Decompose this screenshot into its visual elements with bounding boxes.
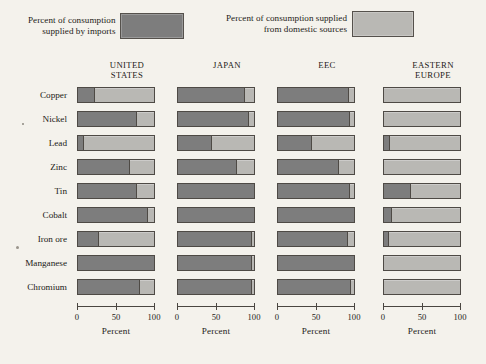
bar-segment-domestic: [77, 159, 155, 175]
bar-segment-imports: [178, 160, 237, 174]
bar-segment-imports: [278, 160, 339, 174]
bar-segment-imports: [278, 256, 354, 270]
legend-label-imports-line1: Percent of consumption: [28, 15, 115, 26]
bar-row-lead: [277, 135, 355, 151]
legend-label-domestic: Percent of consumption supplied from dom…: [226, 13, 352, 35]
bar-row-copper: [277, 87, 355, 103]
panel-title-eastern-europe: EASTERNEUROPE: [383, 60, 483, 80]
x-axis-tick-label: 50: [312, 312, 321, 322]
bar-segment-imports: [78, 136, 84, 150]
bar-segment-domestic: [277, 159, 355, 175]
bar-segment-imports: [178, 256, 252, 270]
bar-row-tin: [177, 183, 255, 199]
panel-title-line1: JAPAN: [177, 60, 277, 70]
panel-japan: JAPAN050100Percent: [177, 60, 277, 364]
legend-item-imports: Percent of consumption supplied by impor…: [28, 13, 184, 39]
plot-area: [383, 87, 461, 303]
panel-title-line1: UNITED: [77, 60, 177, 70]
bar-segment-domestic: [177, 255, 255, 271]
bar-segment-imports: [178, 280, 252, 294]
legend-label-imports-line2: supplied by imports: [28, 26, 115, 37]
bar-row-iron-ore: [277, 231, 355, 247]
bar-row-iron-ore: [177, 231, 255, 247]
legend-item-domestic: Percent of consumption supplied from dom…: [226, 11, 414, 37]
x-axis-tick: [460, 303, 461, 310]
bar-row-iron-ore: [77, 231, 155, 247]
x-axis-title: Percent: [383, 326, 461, 336]
bar-segment-domestic: [77, 207, 155, 223]
panel-title-eec: EEC: [277, 60, 377, 70]
bar-segment-domestic: [277, 255, 355, 271]
bar-segment-imports: [78, 88, 95, 102]
bar-segment-domestic: [177, 207, 255, 223]
panel-eastern-europe: EASTERNEUROPE050100Percent: [383, 60, 483, 364]
panel-title-line2: EUROPE: [383, 70, 483, 80]
bar-segment-domestic: [177, 279, 255, 295]
bar-segment-domestic: [177, 159, 255, 175]
legend-label-domestic-line2: from domestic sources: [226, 24, 347, 35]
x-axis-tick: [177, 303, 178, 310]
bar-row-manganese: [177, 255, 255, 271]
bar-row-copper: [77, 87, 155, 103]
x-axis: 050100Percent: [383, 306, 461, 346]
bar-row-tin: [77, 183, 155, 199]
bar-segment-imports: [278, 112, 350, 126]
bar-segment-domestic: [383, 111, 461, 127]
bar-row-manganese: [277, 255, 355, 271]
bar-row-zinc: [77, 159, 155, 175]
bar-segment-domestic: [177, 183, 255, 199]
bar-row-lead: [383, 135, 461, 151]
bar-segment-domestic: [277, 135, 355, 151]
bar-segment-domestic: [77, 183, 155, 199]
bar-segment-domestic: [383, 87, 461, 103]
bar-row-cobalt: [383, 207, 461, 223]
x-axis-tick-label: 50: [112, 312, 121, 322]
bar-row-nickel: [177, 111, 255, 127]
bar-segment-imports: [384, 184, 411, 198]
bar-row-chromium: [177, 279, 255, 295]
bar-segment-domestic: [277, 111, 355, 127]
bar-segment-domestic: [383, 207, 461, 223]
legend-label-domestic-line1: Percent of consumption supplied: [226, 13, 347, 24]
x-axis-title: Percent: [77, 326, 155, 336]
bar-segment-domestic: [277, 207, 355, 223]
bar-segment-imports: [278, 88, 349, 102]
bar-segment-imports: [178, 232, 252, 246]
panel-title-line2: STATES: [77, 70, 177, 80]
x-axis-tick-label: 0: [175, 312, 179, 322]
x-axis: 050100Percent: [177, 306, 255, 346]
bar-segment-imports: [78, 160, 130, 174]
x-axis-title: Percent: [177, 326, 255, 336]
x-axis-tick-label: 50: [212, 312, 221, 322]
bar-segment-imports: [278, 232, 348, 246]
bar-segment-domestic: [277, 231, 355, 247]
bar-row-nickel: [77, 111, 155, 127]
bar-row-chromium: [277, 279, 355, 295]
bar-segment-domestic: [177, 231, 255, 247]
bar-row-tin: [383, 183, 461, 199]
bar-row-nickel: [277, 111, 355, 127]
x-axis-title: Percent: [277, 326, 355, 336]
bar-segment-domestic: [177, 87, 255, 103]
legend-swatch-domestic: [352, 11, 414, 37]
bar-row-nickel: [383, 111, 461, 127]
bar-segment-imports: [78, 280, 140, 294]
x-axis-tick: [116, 303, 117, 310]
bar-segment-imports: [278, 136, 312, 150]
x-axis-tick: [316, 303, 317, 310]
bar-segment-domestic: [383, 279, 461, 295]
bar-segment-imports: [278, 280, 351, 294]
plot-area: [77, 87, 155, 303]
bar-segment-imports: [384, 208, 392, 222]
x-axis-tick: [154, 303, 155, 310]
bar-row-lead: [77, 135, 155, 151]
bar-row-zinc: [277, 159, 355, 175]
x-axis-tick: [354, 303, 355, 310]
x-axis-tick: [383, 303, 384, 310]
panel-title-united-states: UNITEDSTATES: [77, 60, 177, 80]
bar-segment-domestic: [77, 135, 155, 151]
bar-row-copper: [177, 87, 255, 103]
bar-segment-imports: [78, 256, 154, 270]
panel-eec: EEC050100Percent: [277, 60, 377, 364]
x-axis: 050100Percent: [277, 306, 355, 346]
